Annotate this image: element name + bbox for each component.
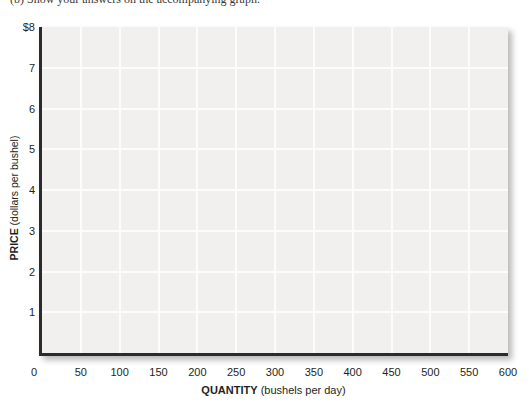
clipped-instruction-text: (b) Show your answers on the accompanyin…: [10, 0, 260, 6]
y-axis-line: [39, 27, 42, 356]
x-tick-label: 550: [449, 366, 489, 378]
x-tick-label: 50: [61, 366, 101, 378]
y-tick-label: 6: [5, 103, 35, 115]
x-tick-label: 200: [177, 366, 217, 378]
y-tick-label: 1: [5, 306, 35, 318]
x-tick-label: 400: [333, 366, 373, 378]
horizontal-gridline: [42, 189, 508, 191]
x-tick-label: 450: [372, 366, 412, 378]
horizontal-gridline: [42, 230, 508, 232]
x-tick-label: 150: [139, 366, 179, 378]
x-axis-title: QUANTITY (bushels per day): [39, 384, 508, 396]
x-axis-title-units: (bushels per day): [258, 384, 346, 396]
x-tick-label: 300: [255, 366, 295, 378]
x-tick-label: 600: [488, 366, 528, 378]
horizontal-gridline: [42, 108, 508, 110]
page: (b) Show your answers on the accompanyin…: [0, 0, 529, 407]
plot-area: [42, 27, 508, 353]
y-tick-label: 7: [5, 62, 35, 74]
x-axis-title-bold: QUANTITY: [201, 384, 257, 396]
y-tick-label: $8: [5, 21, 35, 33]
x-tick-label: 0: [14, 366, 54, 378]
y-tick-label: 2: [5, 266, 35, 278]
horizontal-gridline: [42, 311, 508, 313]
x-tick-label: 500: [410, 366, 450, 378]
x-tick-label: 100: [100, 366, 140, 378]
chart-frame: [39, 27, 508, 356]
y-axis-title: PRICE (dollars per bushel): [8, 136, 20, 261]
horizontal-gridline: [42, 148, 508, 150]
y-axis-title-bold: PRICE: [8, 228, 20, 260]
x-tick-label: 350: [294, 366, 334, 378]
x-axis-line: [39, 353, 508, 356]
horizontal-gridline: [42, 67, 508, 69]
horizontal-gridline: [42, 271, 508, 273]
y-axis-title-units: (dollars per bushel): [8, 136, 20, 229]
x-tick-label: 250: [216, 366, 256, 378]
